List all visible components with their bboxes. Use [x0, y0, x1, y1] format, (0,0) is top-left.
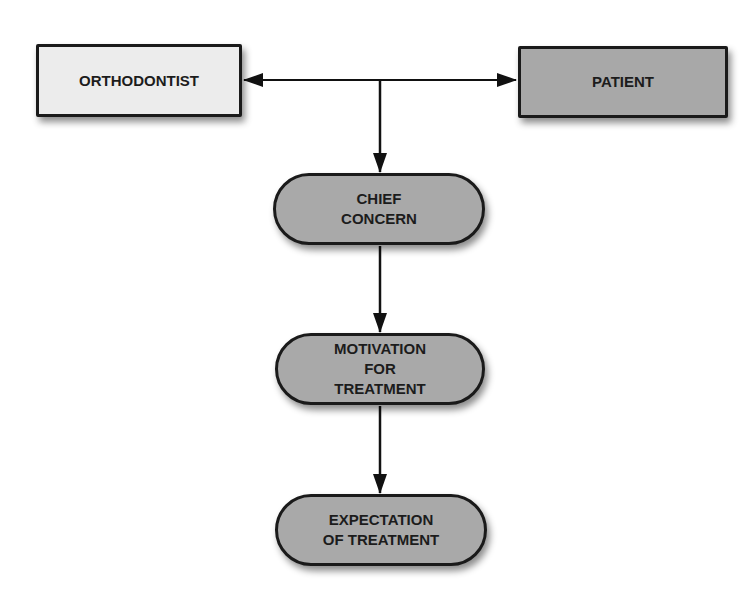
chief-concern-node: CHIEF CONCERN [273, 173, 485, 245]
patient-node: PATIENT [518, 46, 728, 118]
orthodontist-label: ORTHODONTIST [79, 71, 199, 91]
orthodontist-node: ORTHODONTIST [36, 44, 242, 117]
expectation-label: EXPECTATION OF TREATMENT [323, 510, 439, 550]
expectation-node: EXPECTATION OF TREATMENT [275, 494, 487, 566]
motivation-node: MOTIVATION FOR TREATMENT [275, 333, 485, 405]
motivation-label: MOTIVATION FOR TREATMENT [334, 339, 426, 399]
patient-label: PATIENT [592, 72, 654, 92]
chief-concern-label: CHIEF CONCERN [341, 189, 417, 229]
